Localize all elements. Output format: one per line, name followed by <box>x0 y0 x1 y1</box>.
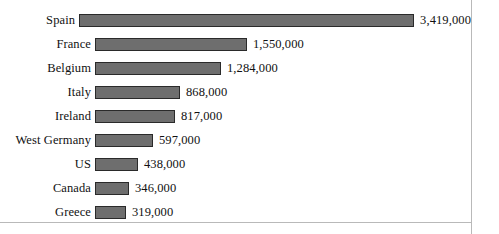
bar-value-label: 1,284,000 <box>227 62 278 75</box>
bar <box>95 134 153 147</box>
category-label: Spain <box>0 14 75 27</box>
frame-right-rule <box>471 0 472 234</box>
bar-value-label: 868,000 <box>186 86 227 99</box>
bar-row: West Germany597,000 <box>0 128 471 152</box>
bar-value-label: 438,000 <box>144 158 185 171</box>
category-label: Italy <box>0 86 91 99</box>
bar-track: 319,000 <box>95 200 471 224</box>
category-label: US <box>0 158 91 171</box>
bar-value-label: 346,000 <box>135 182 176 195</box>
bar-row: Spain3,419,000 <box>0 8 471 32</box>
bar-track: 1,284,000 <box>95 56 471 80</box>
category-label: Ireland <box>0 110 91 123</box>
bar-row: US438,000 <box>0 152 471 176</box>
bar-value-label: 319,000 <box>132 206 173 219</box>
bar <box>95 206 126 219</box>
bar-row: Italy868,000 <box>0 80 471 104</box>
category-label: Canada <box>0 182 91 195</box>
bar-track: 597,000 <box>95 128 471 152</box>
bar <box>95 110 175 123</box>
bar <box>95 86 180 99</box>
bar-track: 346,000 <box>95 176 471 200</box>
category-label: Greece <box>0 206 91 219</box>
bar-track: 438,000 <box>95 152 471 176</box>
bar <box>95 62 221 75</box>
bar-track: 1,550,000 <box>95 32 471 56</box>
bar <box>95 182 129 195</box>
bar-row: Belgium1,284,000 <box>0 56 471 80</box>
bar <box>95 38 247 51</box>
bar-row: Ireland817,000 <box>0 104 471 128</box>
bar-value-label: 817,000 <box>181 110 222 123</box>
bar-row: Canada346,000 <box>0 176 471 200</box>
plot-area: Spain3,419,000France1,550,000Belgium1,28… <box>0 0 471 222</box>
bar-value-label: 3,419,000 <box>420 14 471 27</box>
bar-track: 3,419,000 <box>79 8 471 32</box>
bar-track: 817,000 <box>95 104 471 128</box>
horizontal-bar-chart: Spain3,419,000France1,550,000Belgium1,28… <box>0 0 499 234</box>
category-label: Belgium <box>0 62 91 75</box>
bar-row: Greece319,000 <box>0 200 471 224</box>
bar-row: France1,550,000 <box>0 32 471 56</box>
bar <box>95 158 138 171</box>
category-label: France <box>0 38 91 51</box>
bar <box>79 14 414 27</box>
category-label: West Germany <box>0 134 91 147</box>
bar-value-label: 597,000 <box>159 134 200 147</box>
frame-bottom-rule <box>0 222 472 223</box>
bar-value-label: 1,550,000 <box>253 38 304 51</box>
bar-track: 868,000 <box>95 80 471 104</box>
